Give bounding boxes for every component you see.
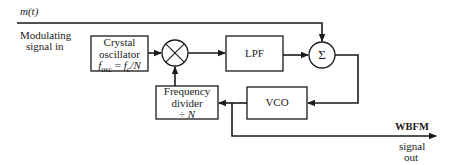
diagram-canvas — [0, 0, 453, 165]
output-caption-line2: out — [404, 151, 418, 163]
input-signal-label: m(t) — [20, 5, 38, 17]
lpf-label: LPF — [226, 48, 283, 60]
frequency-divider-label: Frequency divider ÷ N — [156, 86, 218, 121]
crystal-oscillator-label: Crystal oscillator fosc = fc/N — [91, 37, 148, 76]
vco-label: VCO — [247, 97, 307, 109]
input-caption-line2: signal in — [26, 40, 64, 52]
output-label: WBFM — [395, 121, 429, 133]
crystal-oscillator-formula: fosc = fc/N — [91, 60, 148, 76]
frequency-divider-line3: ÷ N — [156, 109, 218, 121]
crystal-oscillator-line1: Crystal — [91, 37, 148, 49]
mixer-icon — [162, 40, 188, 66]
frequency-divider-line1: Frequency — [156, 86, 218, 98]
summer-symbol: Σ — [309, 48, 335, 62]
